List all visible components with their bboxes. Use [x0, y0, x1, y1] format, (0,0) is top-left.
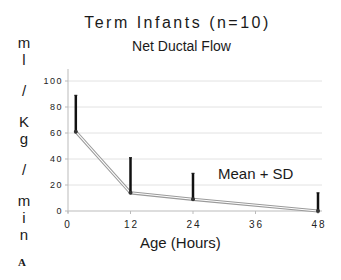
- y-tick-label: 80: [50, 102, 63, 112]
- data-point-marker: [129, 191, 133, 195]
- x-tick-label: 12: [124, 219, 139, 230]
- x-tick-label: 24: [186, 219, 201, 230]
- y-tick-label: 60: [50, 128, 63, 138]
- data-point-marker: [74, 130, 78, 134]
- data-point-marker: [191, 197, 195, 201]
- x-tick-label: 36: [249, 219, 264, 230]
- y-tick-label: 20: [50, 180, 63, 190]
- y-tick-label: 40: [50, 154, 63, 164]
- data-point-marker: [316, 209, 320, 213]
- panel-label: A: [18, 256, 26, 268]
- x-tick-label: 0: [64, 219, 72, 230]
- y-tick-label: 0: [56, 206, 63, 216]
- x-axis-label: Age (Hours): [140, 234, 221, 251]
- x-tick-label: 48: [311, 219, 326, 230]
- legend-annotation: Mean + SD: [218, 165, 293, 182]
- y-tick-label: 100: [43, 76, 63, 86]
